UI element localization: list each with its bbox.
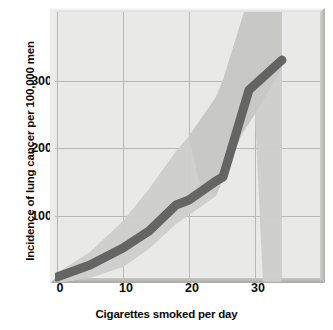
- plot-area: [50, 8, 325, 283]
- chart-figure: Incidence of lung cancer per 100,000 men…: [0, 0, 333, 330]
- x-tick-label-20: 20: [172, 281, 212, 295]
- x-tick-label-30: 30: [238, 281, 278, 295]
- x-axis-title: Cigarettes smoked per day: [0, 308, 333, 320]
- y-tick-label-100: 100: [6, 210, 52, 222]
- x-axis-tick-labels: 0 10 20 30: [0, 281, 333, 303]
- y-tick-label-200: 200: [6, 142, 52, 154]
- x-tick-label-0: 0: [40, 281, 80, 295]
- plot-svg: [50, 8, 325, 283]
- x-tick-label-10: 10: [106, 281, 146, 295]
- y-tick-label-300: 300: [6, 75, 52, 87]
